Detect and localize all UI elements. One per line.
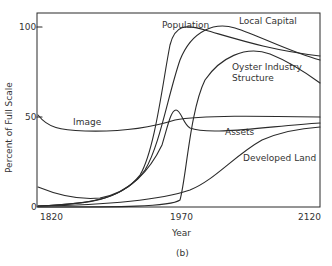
x-axis-label: Year <box>172 228 191 238</box>
x-tick-label-1820: 1820 <box>40 212 63 222</box>
y-tick-label-0: 0 <box>31 202 37 212</box>
label-population: Population <box>162 20 209 30</box>
series-oyster-industry <box>38 51 320 207</box>
label-oyster-line2: Structure <box>232 73 274 83</box>
figure-caption: (b) <box>176 248 189 258</box>
line-chart <box>0 0 332 266</box>
x-tick-label-1970: 1970 <box>170 212 193 222</box>
label-assets: Assets <box>225 127 254 137</box>
y-tick-label-50: 50 <box>25 112 36 122</box>
plot-frame <box>37 13 320 207</box>
y-axis-label: Percent of Full Scale <box>4 82 14 173</box>
label-local-capital: Local Capital <box>239 16 297 26</box>
label-image: Image <box>73 117 101 127</box>
label-developed-land: Developed Land <box>243 153 316 163</box>
series-developed-land <box>38 127 320 206</box>
label-oyster-line1: Oyster Industry <box>232 62 302 72</box>
x-tick-label-2120: 2120 <box>298 212 321 222</box>
y-tick-label-100: 100 <box>19 22 36 32</box>
